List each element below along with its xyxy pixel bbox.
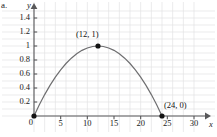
x-tick-label: 10	[77, 119, 97, 128]
x-tick-label: 30	[184, 119, 204, 128]
x-tick-label: 25	[157, 119, 177, 128]
y-tick-label: 1	[8, 41, 30, 50]
point-label: (12, 1)	[76, 30, 99, 39]
origin-tick-label: 0	[24, 118, 33, 127]
point-label: (24, 0)	[164, 101, 187, 110]
y-tick-label: 1.4	[8, 13, 30, 22]
x-tick-label: 15	[104, 119, 124, 128]
x-tick-label: 20	[131, 119, 151, 128]
y-tick-label: 1.2	[8, 27, 30, 36]
y-tick-label: 0.6	[8, 69, 30, 78]
figure-container: a. 0.20.40.60.811.21.4 51015202530 (12, …	[0, 0, 217, 137]
x-tick-label: 5	[51, 119, 71, 128]
y-axis-label: y	[27, 1, 31, 10]
y-tick-label: 0.8	[8, 55, 30, 64]
x-axis-label: x	[209, 120, 213, 129]
y-tick-label: 0.2	[8, 97, 30, 106]
y-tick-label: 0.4	[8, 83, 30, 92]
